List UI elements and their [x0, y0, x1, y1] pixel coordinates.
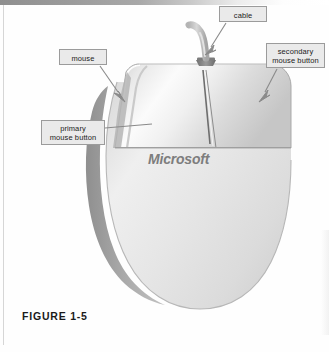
leader-line-mouse [100, 66, 118, 92]
figure-page: cable secondary mouse button mouse prima… [0, 0, 329, 352]
callout-label-primary-mouse-button: primary mouse button [41, 120, 105, 145]
callout-label-mouse: mouse [59, 49, 107, 65]
callout-label-cable: cable [219, 6, 267, 22]
mouse-brand-text: Microsoft [148, 151, 209, 167]
callout-label-secondary-mouse-button: secondary mouse button [266, 43, 325, 68]
figure-caption: FIGURE 1-5 [22, 310, 88, 322]
leader-line-cable [211, 23, 226, 47]
